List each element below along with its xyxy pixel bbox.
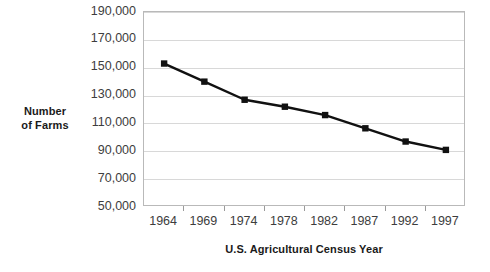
x-axis-tick-marks [143, 206, 465, 212]
x-axis-title: U.S. Agricultural Census Year [143, 243, 465, 255]
x-axis-tick-label: 1982 [310, 214, 338, 228]
x-axis-tick-mark [304, 206, 305, 211]
y-axis-tick-label: 90,000 [58, 144, 136, 157]
series-polyline [164, 64, 446, 150]
data-point-marker [443, 147, 449, 153]
data-point-marker [241, 97, 247, 103]
x-axis-tick-mark [264, 206, 265, 211]
x-axis-tick-mark [224, 206, 225, 211]
data-point-marker [161, 60, 167, 66]
x-axis-tick-labels: 19641969197419781982198719921997 [143, 214, 465, 232]
x-axis-tick-label: 1969 [189, 214, 217, 228]
data-point-marker [282, 104, 288, 110]
y-axis-tick-label: 150,000 [58, 60, 136, 73]
y-axis-tick-label: 50,000 [58, 200, 136, 213]
data-point-marker [201, 78, 207, 84]
y-axis-tick-label: 130,000 [58, 88, 136, 101]
x-axis-tick-label: 1974 [230, 214, 258, 228]
x-axis-tick-mark [385, 206, 386, 211]
y-axis-tick-labels: 190,000170,000150,000130,000110,00090,00… [58, 11, 136, 206]
plot-area [143, 11, 465, 206]
y-axis-tick-label: 70,000 [58, 172, 136, 185]
chart-figure: Number of Farms 190,000170,000150,000130… [0, 0, 490, 272]
x-axis-tick-label: 1978 [270, 214, 298, 228]
x-axis-tick-label: 1964 [149, 214, 177, 228]
data-point-marker [402, 138, 408, 144]
data-point-marker [362, 125, 368, 131]
data-point-marker [322, 112, 328, 118]
x-axis-tick-label: 1987 [350, 214, 378, 228]
x-axis-tick-label: 1992 [391, 214, 419, 228]
y-axis-tick-label: 110,000 [58, 116, 136, 129]
x-axis-tick-mark [344, 206, 345, 211]
data-series-line [144, 12, 466, 207]
y-axis-tick-label: 170,000 [58, 32, 136, 45]
x-axis-tick-mark [183, 206, 184, 211]
x-axis-tick-mark [425, 206, 426, 211]
x-axis-tick-label: 1997 [431, 214, 459, 228]
y-axis-tick-label: 190,000 [58, 5, 136, 18]
